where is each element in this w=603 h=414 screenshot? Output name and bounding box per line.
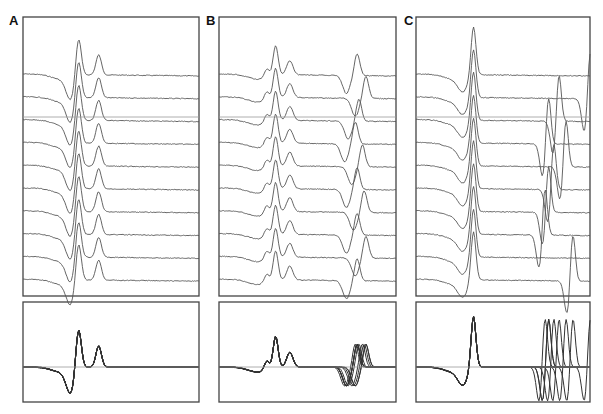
trace xyxy=(23,86,199,145)
trace xyxy=(23,40,199,100)
overlay-trace xyxy=(23,331,199,393)
overlay-trace xyxy=(23,331,199,394)
trace xyxy=(416,118,590,199)
trace xyxy=(219,229,396,276)
overlay-trace xyxy=(23,330,199,393)
overlay-trace xyxy=(23,331,199,394)
overlay-trace xyxy=(219,337,396,386)
trace xyxy=(416,27,590,92)
overlay-trace xyxy=(219,337,396,386)
panel-c-frame xyxy=(416,17,590,296)
overlay-trace xyxy=(219,337,396,386)
panel-a-overlay-frame xyxy=(23,302,199,402)
trace xyxy=(23,177,199,237)
trace xyxy=(23,223,199,282)
overlay-trace xyxy=(23,331,199,394)
overlay-trace xyxy=(219,337,396,386)
overlay-trace xyxy=(219,337,396,387)
overlay-trace xyxy=(219,337,396,386)
panel-b-overlay-frame xyxy=(219,302,396,402)
trace xyxy=(219,91,396,139)
overlay-trace xyxy=(23,331,199,394)
trace xyxy=(23,63,199,123)
overlay-trace xyxy=(23,330,199,393)
overlay-trace xyxy=(23,331,199,393)
figure-canvas xyxy=(0,0,603,414)
overlay-trace xyxy=(219,337,396,386)
trace xyxy=(23,131,199,190)
trace xyxy=(416,209,590,274)
panel-b-frame xyxy=(219,17,396,296)
trace xyxy=(219,160,396,207)
trace xyxy=(23,200,199,259)
overlay-trace xyxy=(219,337,396,386)
panel-a-frame xyxy=(23,17,199,296)
trace xyxy=(416,187,590,267)
trace xyxy=(219,68,396,116)
trace xyxy=(416,95,590,175)
trace xyxy=(23,154,199,213)
overlay-trace xyxy=(23,331,199,393)
trace xyxy=(416,164,590,244)
overlay-trace xyxy=(219,337,396,386)
trace xyxy=(416,50,590,130)
overlay-trace xyxy=(219,337,396,387)
trace xyxy=(416,232,590,313)
trace xyxy=(219,46,396,94)
overlay-trace xyxy=(23,331,199,393)
